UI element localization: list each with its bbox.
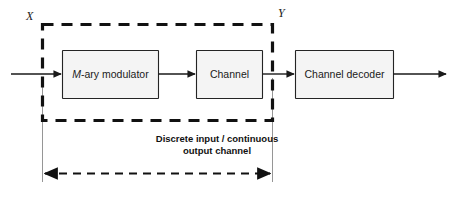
block-modulator-label-italic: M <box>72 68 81 80</box>
channel-caption-line1: Discrete input / continuous <box>156 133 278 144</box>
block-diagram-figure: M-ary modulator Channel Channel decoder … <box>0 0 456 200</box>
block-channel-label: Channel <box>210 68 249 80</box>
channel-caption-line2: output channel <box>183 145 251 156</box>
block-modulator-label: M-ary modulator <box>72 68 149 80</box>
output-signal-label-y: Y <box>278 6 286 20</box>
block-modulator-label-rest: -ary modulator <box>81 68 149 80</box>
block-channel-decoder-label: Channel decoder <box>305 68 385 80</box>
diagram-canvas: M-ary modulator Channel Channel decoder … <box>0 0 456 200</box>
input-signal-label-x: X <box>25 9 34 23</box>
